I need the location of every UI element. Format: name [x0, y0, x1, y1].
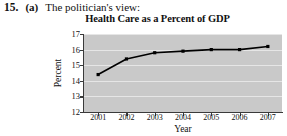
- data-point-marker: [125, 57, 128, 60]
- x-axis-label: Year: [84, 124, 282, 134]
- data-point-marker: [238, 48, 241, 51]
- data-point-marker: [97, 73, 100, 76]
- problem-letter: (a): [25, 1, 38, 13]
- problem-prompt: The politician's view:: [45, 1, 140, 13]
- problem-header: 15. (a) The politician's view:: [4, 1, 140, 13]
- y-tick-label: 13: [62, 92, 80, 101]
- problem-number: 15.: [4, 1, 18, 13]
- y-tick-label: 14: [62, 77, 80, 86]
- y-tick-label: 17: [62, 30, 80, 39]
- x-tick-label: 2002: [118, 114, 134, 122]
- x-tick-label: 2007: [260, 114, 276, 122]
- chart-title: Health Care as a Percent of GDP: [0, 13, 287, 24]
- data-point-marker: [266, 45, 269, 48]
- data-point-marker: [153, 51, 156, 54]
- y-tick-label: 16: [62, 45, 80, 54]
- data-series: [84, 34, 282, 112]
- x-tick-label: 2001: [90, 114, 106, 122]
- textbook-figure: 15. (a) The politician's view: Health Ca…: [0, 0, 287, 136]
- y-axis-label: Percent: [53, 59, 63, 88]
- y-tick-label: 15: [62, 61, 80, 70]
- x-tick-label: 2003: [147, 114, 163, 122]
- x-tick-label: 2006: [232, 114, 248, 122]
- y-tick-labels: 121314151617: [62, 34, 80, 112]
- y-tick-label: 12: [62, 108, 80, 117]
- x-tick-label: 2005: [203, 114, 219, 122]
- data-point-marker: [181, 50, 184, 53]
- line-chart: 121314151617 200120022003200420052006200…: [84, 34, 282, 112]
- data-point-marker: [210, 48, 213, 51]
- x-tick-label: 2004: [175, 114, 191, 122]
